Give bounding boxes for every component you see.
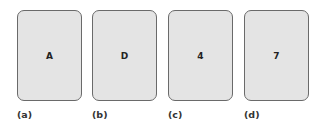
card-face-a: A [46, 51, 53, 61]
caption-a: (a) [17, 109, 32, 120]
card-b: D [92, 10, 157, 101]
card-d: 7 [244, 10, 309, 101]
caption-c: (c) [168, 109, 182, 120]
caption-d: (d) [244, 109, 259, 120]
card-face-d: 7 [273, 51, 279, 61]
card-c: 4 [168, 10, 233, 101]
caption-b: (b) [92, 109, 107, 120]
card-face-c: 4 [197, 51, 203, 61]
card-a: A [17, 10, 82, 101]
card-face-b: D [121, 51, 128, 61]
